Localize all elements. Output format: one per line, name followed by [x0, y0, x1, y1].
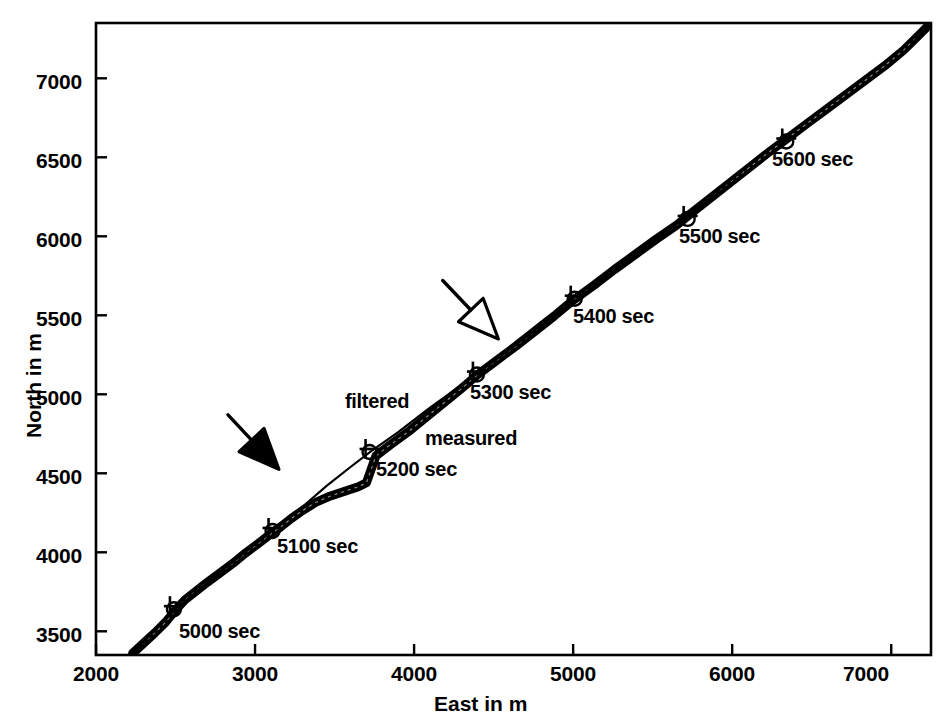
x-axis-title: East in m: [434, 692, 527, 716]
xtick-label-4000: 4000: [374, 662, 454, 686]
time-label-5400: 5400 sec: [573, 305, 654, 328]
xtick-label-5000: 5000: [533, 662, 613, 686]
data-traces: [133, 25, 930, 654]
time-label-5300: 5300 sec: [470, 381, 551, 404]
ytick-label-5500: 5500: [0, 307, 82, 331]
annotation-filtered: filtered: [345, 390, 409, 413]
ytick-label-6000: 6000: [0, 228, 82, 252]
y-axis-title: North in m: [22, 333, 46, 438]
chart-canvas: [0, 0, 939, 724]
annotation-measured: measured: [425, 427, 517, 450]
series-measured-path: [133, 25, 930, 654]
xtick-label-3000: 3000: [215, 662, 295, 686]
ytick-label-7000: 7000: [0, 70, 82, 94]
xtick-label-2000: 2000: [56, 662, 136, 686]
plot-frame: [96, 23, 931, 655]
time-label-5000: 5000 sec: [179, 620, 260, 643]
figure-container: 7000 6500 6000 5500 5000 4500 4000 3500 …: [0, 0, 939, 724]
ytick-label-3500: 3500: [0, 623, 82, 647]
time-label-5200: 5200 sec: [376, 458, 457, 481]
time-label-5600: 5600 sec: [772, 148, 853, 171]
time-label-5500: 5500 sec: [679, 225, 760, 248]
ytick-label-6500: 6500: [0, 149, 82, 173]
ytick-label-4500: 4500: [0, 465, 82, 489]
ytick-label-4000: 4000: [0, 544, 82, 568]
xtick-label-6000: 6000: [692, 662, 772, 686]
xtick-label-7000: 7000: [826, 662, 906, 686]
time-label-5100: 5100 sec: [277, 535, 358, 558]
